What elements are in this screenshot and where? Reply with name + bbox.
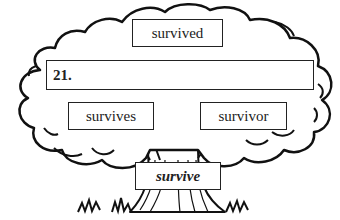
word-box-left: survives (68, 102, 154, 130)
root-word-box: survive (135, 162, 221, 190)
word-box-right: survivor (200, 102, 287, 130)
question-number: 21. (53, 67, 72, 84)
answer-box[interactable]: 21. (46, 60, 314, 90)
word-box-top: survived (132, 19, 223, 47)
